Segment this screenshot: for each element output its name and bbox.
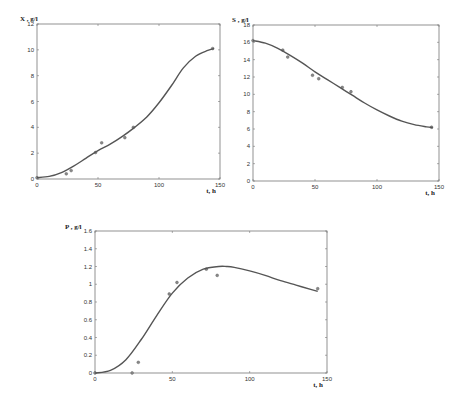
y-tick-label: 0.2: [84, 352, 93, 358]
data-point: [123, 136, 126, 139]
y-tick-label: 10: [243, 91, 250, 97]
y-tick-label: 10: [27, 47, 34, 53]
x-tick-label: 50: [95, 182, 102, 188]
y-tick-label: 0: [247, 178, 251, 184]
y-tick-label: 1.4: [84, 246, 93, 252]
y-tick-label: 8: [247, 109, 251, 115]
y-axis-label: X , g/l: [20, 15, 38, 23]
y-tick-label: 2: [247, 161, 251, 167]
x-tick-label: 150: [434, 184, 445, 190]
x-axis-label: t, h: [313, 381, 323, 389]
data-point: [70, 169, 73, 172]
y-tick-label: 6: [31, 99, 35, 105]
y-tick-label: 4: [247, 143, 251, 149]
y-tick-label: 1: [89, 281, 93, 287]
data-point: [131, 372, 134, 375]
plot-frame: [95, 231, 327, 373]
x-tick-label: 150: [322, 376, 333, 382]
model-curve: [95, 266, 318, 373]
figure-canvas: 024681012050100150X , g/lt, h 0246810121…: [0, 0, 457, 400]
product-p-plot: 00.20.40.60.811.21.41.6050100150P , g/lt…: [65, 223, 333, 389]
plot-frame: [37, 24, 220, 179]
y-tick-label: 6: [247, 126, 251, 132]
data-point: [286, 56, 289, 59]
y-tick-label: 16: [243, 39, 250, 45]
data-point: [350, 90, 353, 93]
y-tick-label: 0.6: [84, 317, 93, 323]
x-tick-label: 0: [93, 376, 97, 382]
x-tick-label: 150: [215, 182, 226, 188]
x-tick-label: 50: [312, 184, 319, 190]
x-tick-label: 100: [372, 184, 383, 190]
x-tick-label: 0: [251, 184, 255, 190]
data-point: [65, 172, 68, 175]
x-tick-label: 50: [169, 376, 176, 382]
y-tick-label: 0: [89, 370, 93, 376]
data-point: [216, 274, 219, 277]
x-tick-label: 0: [35, 182, 39, 188]
substrate-s-plot: 024681012141618050100150S , g/lt, h: [232, 16, 445, 197]
x-axis-label: t, h: [206, 187, 216, 195]
x-tick-label: 100: [154, 182, 165, 188]
y-tick-label: 12: [243, 74, 250, 80]
data-point: [311, 74, 314, 77]
data-point: [100, 141, 103, 144]
y-tick-label: 0: [31, 176, 35, 182]
y-tick-label: 0.4: [84, 335, 93, 341]
y-tick-label: 4: [31, 124, 35, 130]
y-axis-label: S , g/l: [232, 16, 249, 24]
model-curve: [37, 49, 214, 178]
x-tick-label: 100: [245, 376, 256, 382]
y-tick-label: 2: [31, 150, 35, 156]
data-point: [317, 77, 320, 80]
x-axis-label: t, h: [425, 189, 435, 197]
y-tick-label: 0.8: [84, 299, 93, 305]
y-tick-label: 14: [243, 57, 250, 63]
biomass-x-plot: 024681012050100150X , g/lt, h: [20, 15, 226, 195]
y-axis-label: P , g/l: [65, 223, 82, 231]
data-point: [316, 287, 319, 290]
model-curve: [253, 41, 433, 128]
data-point: [176, 281, 179, 284]
y-tick-label: 1.2: [84, 264, 93, 270]
y-tick-label: 8: [31, 73, 35, 79]
plot-frame: [253, 25, 439, 181]
y-tick-label: 1.6: [84, 228, 93, 234]
data-point: [137, 361, 140, 364]
